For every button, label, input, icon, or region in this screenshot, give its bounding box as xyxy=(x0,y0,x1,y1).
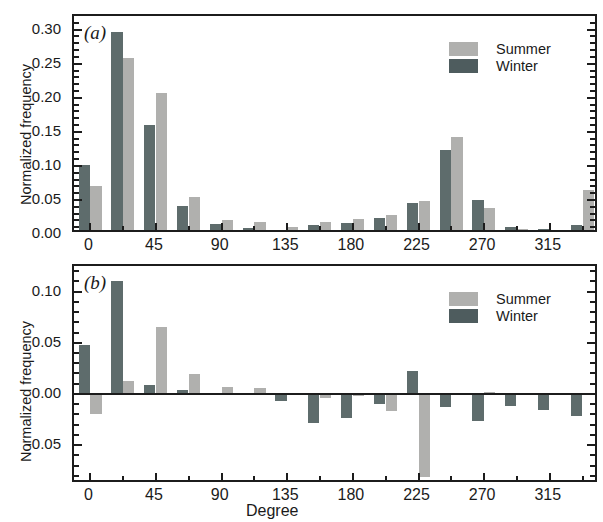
y-minor-tick-right xyxy=(590,352,595,354)
x-minor-tick xyxy=(516,226,518,230)
y-minor-tick-right xyxy=(590,185,595,187)
y-minor-tick-right xyxy=(590,138,595,140)
panel-b-x-axis-title: Degree xyxy=(246,502,298,520)
y-major-tick xyxy=(74,131,82,133)
x-minor-tick xyxy=(122,226,124,230)
bar-winter-0 xyxy=(79,165,90,231)
y-minor-tick xyxy=(74,192,79,194)
bar-winter-202.5 xyxy=(374,394,385,404)
y-tick-label: 0.00 xyxy=(0,385,61,400)
bar-winter-180 xyxy=(341,223,352,230)
y-minor-tick xyxy=(74,465,79,467)
y-major-tick-right xyxy=(587,393,595,395)
bar-summer-270 xyxy=(484,208,495,230)
x-minor-tick xyxy=(516,476,518,480)
x-major-tick xyxy=(155,223,157,230)
x-major-tick xyxy=(221,473,223,480)
legend-swatch-winter-icon xyxy=(449,309,478,323)
y-major-tick-right xyxy=(587,444,595,446)
y-major-tick-right xyxy=(587,29,595,31)
y-major-tick-right xyxy=(587,165,595,167)
y-minor-tick xyxy=(74,56,79,58)
y-major-tick xyxy=(74,165,82,167)
panel-b-plot-frame: (b) Summer Winter xyxy=(72,264,597,482)
x-major-tick xyxy=(155,473,157,480)
x-major-tick xyxy=(549,473,551,480)
legend-swatch-winter-icon xyxy=(449,59,478,73)
x-major-tick xyxy=(418,473,420,480)
y-minor-tick xyxy=(74,332,79,334)
y-major-tick xyxy=(74,342,82,344)
y-major-tick-right xyxy=(587,199,595,201)
bar-winter-247.5 xyxy=(440,394,451,407)
y-minor-tick xyxy=(74,144,79,146)
x-tick-label: 0 xyxy=(58,487,118,503)
bar-winter-157.5 xyxy=(308,225,319,230)
bar-summer-22.5 xyxy=(123,381,134,394)
bar-winter-315 xyxy=(538,394,549,410)
y-minor-tick-right xyxy=(590,76,595,78)
y-minor-tick xyxy=(74,413,79,415)
y-minor-tick-right xyxy=(590,124,595,126)
figure-root: Normalized frequency 0.000.050.100.150.2… xyxy=(0,0,603,522)
y-minor-tick-right xyxy=(590,172,595,174)
bar-winter-337.5 xyxy=(571,394,582,417)
y-minor-tick xyxy=(74,179,79,181)
y-minor-tick xyxy=(74,158,79,160)
bar-winter-247.5 xyxy=(440,150,451,230)
bar-winter-67.5 xyxy=(177,206,188,230)
x-minor-tick xyxy=(582,226,584,230)
y-minor-tick xyxy=(74,362,79,364)
x-minor-tick xyxy=(122,476,124,480)
y-tick-label: 0.05 xyxy=(0,191,61,206)
x-major-tick xyxy=(483,223,485,230)
bar-winter-315 xyxy=(538,229,549,230)
x-major-tick xyxy=(221,223,223,230)
legend-label-summer: Summer xyxy=(496,41,551,57)
y-minor-tick xyxy=(74,110,79,112)
x-tick-label: 180 xyxy=(321,487,381,503)
panel-b: Normalized frequency -0.050.000.050.10 (… xyxy=(0,250,603,522)
y-minor-tick-right xyxy=(590,475,595,477)
y-minor-tick-right xyxy=(590,321,595,323)
x-major-tick xyxy=(483,473,485,480)
y-minor-tick xyxy=(74,35,79,37)
bar-winter-112.5 xyxy=(243,228,254,230)
y-tick-label: 0.00 xyxy=(0,225,61,240)
y-minor-tick-right xyxy=(590,49,595,51)
y-minor-tick xyxy=(74,185,79,187)
y-minor-tick-right xyxy=(590,56,595,58)
y-minor-tick xyxy=(74,83,79,85)
y-minor-tick-right xyxy=(590,332,595,334)
y-minor-tick xyxy=(74,454,79,456)
bar-summer-225 xyxy=(419,201,430,230)
y-minor-tick xyxy=(74,42,79,44)
x-major-tick xyxy=(89,223,91,230)
x-major-tick xyxy=(89,473,91,480)
y-minor-tick xyxy=(74,301,79,303)
x-minor-tick xyxy=(319,476,321,480)
bar-summer-247.5 xyxy=(451,137,462,230)
bar-summer-292.5 xyxy=(517,229,528,230)
y-minor-tick xyxy=(74,151,79,153)
bar-winter-90 xyxy=(210,224,221,230)
y-tick-label: 0.25 xyxy=(0,55,61,70)
bar-summer-90 xyxy=(222,220,233,230)
x-tick-label: 45 xyxy=(124,487,184,503)
bar-winter-270 xyxy=(472,394,483,421)
bar-winter-22.5 xyxy=(111,32,122,230)
bar-summer-0 xyxy=(90,394,101,414)
y-minor-tick xyxy=(74,226,79,228)
y-minor-tick xyxy=(74,49,79,51)
y-major-tick xyxy=(74,393,82,395)
bar-winter-292.5 xyxy=(505,227,516,231)
bar-summer-157.5 xyxy=(320,222,331,230)
bar-summer-22.5 xyxy=(123,58,134,230)
y-minor-tick xyxy=(74,424,79,426)
y-minor-tick-right xyxy=(590,158,595,160)
y-minor-tick-right xyxy=(590,70,595,72)
y-minor-tick-right xyxy=(590,90,595,92)
bar-summer-337.5 xyxy=(583,190,594,230)
legend-swatch-summer-icon xyxy=(449,42,478,56)
bar-summer-202.5 xyxy=(386,394,397,411)
